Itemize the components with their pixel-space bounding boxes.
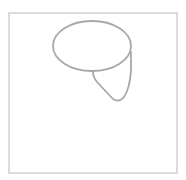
- sketch-canvas: [0, 0, 186, 180]
- canvas-background: [0, 0, 186, 180]
